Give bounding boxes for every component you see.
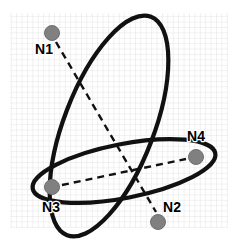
node-n3 (45, 180, 60, 195)
node-n4 (189, 150, 204, 165)
node-n2 (151, 215, 166, 230)
node-label-n2: N2 (163, 199, 181, 215)
node-label-n3: N3 (42, 199, 60, 215)
node-label-n1: N1 (35, 41, 53, 57)
node-label-n4: N4 (187, 128, 205, 144)
node-n1 (45, 26, 60, 41)
diagram-canvas: N1 N2 N3 N4 (0, 0, 239, 251)
cluster-diagram: N1 N2 N3 N4 (0, 0, 239, 251)
